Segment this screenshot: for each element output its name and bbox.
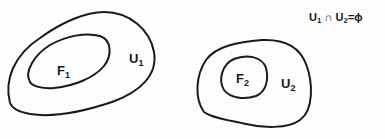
disjoint-equation: U1 ∩ U2=ϕ [309, 11, 363, 25]
intersection-symbol: ∩ [324, 11, 332, 23]
label-u2: U2 [281, 77, 295, 93]
set-diagram: F1 U1 F2 U2 U1 ∩ U2=ϕ [0, 0, 385, 139]
empty-set-symbol: ϕ [354, 11, 362, 23]
label-f1: F1 [57, 64, 70, 80]
label-f2: F2 [236, 72, 249, 88]
label-u1: U1 [129, 52, 143, 68]
region-f1-boundary [28, 34, 109, 88]
